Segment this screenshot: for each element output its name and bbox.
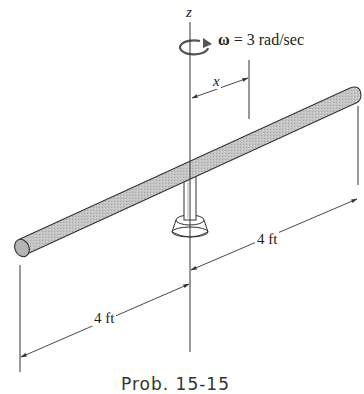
z-axis-label: z xyxy=(186,5,192,20)
x-dimension xyxy=(192,60,249,119)
rotation-arrow-icon xyxy=(180,38,212,54)
omega-symbol: ω xyxy=(218,31,230,48)
right-length-label: 4 ft xyxy=(255,232,279,247)
left-length-label: 4 ft xyxy=(92,311,116,326)
x-position-label: x xyxy=(212,74,221,89)
angular-velocity-value: 3 rad/sec xyxy=(247,31,304,48)
equals-sign: = xyxy=(230,31,247,48)
angular-velocity-label: ω = 3 rad/sec xyxy=(218,32,304,48)
figure-caption: Prob. 15-15 xyxy=(121,376,230,393)
